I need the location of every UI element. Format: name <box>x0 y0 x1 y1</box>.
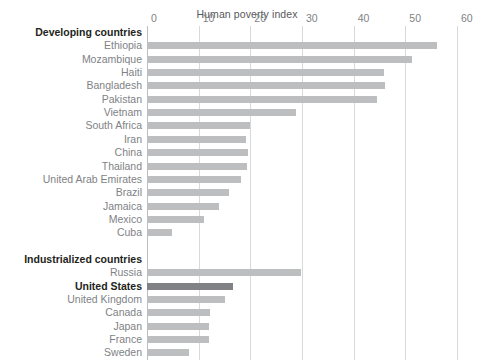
bar-label: Mexico <box>109 213 142 226</box>
bar-label: Canada <box>105 306 142 319</box>
bar-row: Vietnam <box>147 106 457 119</box>
bar-row: United States <box>147 280 457 293</box>
bar-row: China <box>147 146 457 159</box>
bar-row: Haiti <box>147 66 457 79</box>
bar <box>147 42 437 49</box>
bar-row: Russia <box>147 266 457 279</box>
bar <box>147 309 210 316</box>
bar-row: Mozambique <box>147 53 457 66</box>
bar <box>147 323 209 330</box>
x-tick-label-50: 50 <box>409 12 421 24</box>
bar-row: United Kingdom <box>147 293 457 306</box>
bar <box>147 269 301 276</box>
bar <box>147 122 250 129</box>
bar-label: Vietnam <box>104 106 142 119</box>
bar-label: Sweden <box>104 346 142 359</box>
bar <box>147 336 209 343</box>
bar-row: Japan <box>147 320 457 333</box>
bar-label: Japan <box>113 320 142 333</box>
bar-label: South Africa <box>85 119 142 132</box>
bar-label: Russia <box>110 266 142 279</box>
bar-row: Brazil <box>147 186 457 199</box>
bar-row: Pakistan <box>147 93 457 106</box>
bar <box>147 136 246 143</box>
bar <box>147 229 172 236</box>
bar-row: United Arab Emirates <box>147 173 457 186</box>
bar-row: France <box>147 333 457 346</box>
x-tick-label-20: 20 <box>254 12 266 24</box>
bar <box>147 96 377 103</box>
bar-label: Iran <box>124 133 142 146</box>
bar-row: South Africa <box>147 119 457 132</box>
bar-label: China <box>115 146 142 159</box>
bar-label: Bangladesh <box>87 79 142 92</box>
x-tick-label-40: 40 <box>358 12 370 24</box>
bar <box>147 176 241 183</box>
bar <box>147 82 385 89</box>
bar-label: United Kingdom <box>67 293 142 306</box>
group-heading-developing: Developing countries <box>35 26 142 39</box>
bar-label: United Arab Emirates <box>43 173 142 186</box>
bar-label: Brazil <box>116 186 142 199</box>
bar-row: Mexico <box>147 213 457 226</box>
bar-row: Jamaica <box>147 200 457 213</box>
bar-row: Cuba <box>147 226 457 239</box>
bar-label: France <box>109 333 142 346</box>
bar-label: Haiti <box>121 66 142 79</box>
bar-label: Ethiopia <box>104 39 142 52</box>
bar-row: Thailand <box>147 160 457 173</box>
bar <box>147 163 247 170</box>
bar <box>147 296 225 303</box>
bar <box>147 149 248 156</box>
bar <box>147 56 412 63</box>
bar <box>147 109 296 116</box>
bar-row: Sweden <box>147 346 457 359</box>
bar-label: Thailand <box>102 160 142 173</box>
bar-label: United States <box>75 280 142 293</box>
bar-label: Mozambique <box>82 53 142 66</box>
bar <box>147 69 384 76</box>
bar-row: Ethiopia <box>147 39 457 52</box>
bar <box>147 349 189 356</box>
x-tick-label-30: 30 <box>306 12 318 24</box>
bar-label: Cuba <box>117 226 142 239</box>
x-tick-label-0: 0 <box>151 12 157 24</box>
bar <box>147 283 233 290</box>
bar-label: Pakistan <box>102 93 142 106</box>
bar <box>147 203 219 210</box>
bar <box>147 189 229 196</box>
bar-label: Jamaica <box>103 200 142 213</box>
gridline-60 <box>457 26 458 360</box>
plot-area: 0102030405060Developing countriesEthiopi… <box>147 26 457 346</box>
group-heading-industrialized: Industrialized countries <box>24 253 142 266</box>
bar-row: Bangladesh <box>147 79 457 92</box>
x-tick-label-10: 10 <box>203 12 215 24</box>
bar <box>147 216 204 223</box>
bar-row: Canada <box>147 306 457 319</box>
bar-row: Iran <box>147 133 457 146</box>
x-tick-label-60: 60 <box>461 12 473 24</box>
